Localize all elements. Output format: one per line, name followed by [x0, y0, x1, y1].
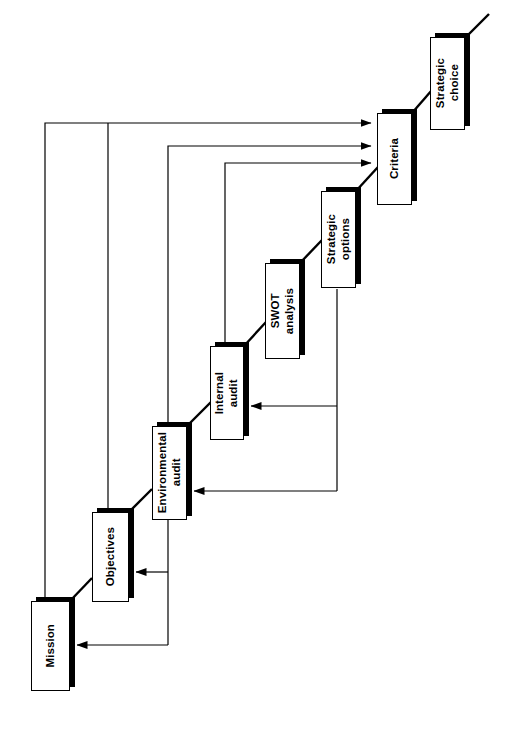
node-label-criteria: Criteria	[388, 138, 402, 179]
node-strategic-choice[interactable]: Strategic choice	[430, 37, 465, 130]
node-label-objectives: Objectives	[104, 527, 118, 586]
strategic-planning-diagram: Mission Objectives Environmental audit I…	[0, 0, 509, 735]
node-objectives[interactable]: Objectives	[92, 512, 129, 602]
node-strategic-options[interactable]: Strategic options	[321, 191, 356, 288]
node-environmental-audit[interactable]: Environmental audit	[152, 426, 187, 520]
node-label-swot-analysis: SWOT analysis	[269, 288, 296, 334]
node-label-mission: Mission	[44, 624, 58, 668]
node-label-strategic-options: Strategic options	[325, 214, 352, 264]
node-label-internal-audit: Internal audit	[213, 372, 240, 414]
node-label-environmental-audit: Environmental audit	[156, 432, 183, 513]
node-swot-analysis[interactable]: SWOT analysis	[265, 263, 300, 359]
node-label-strategic-choice: Strategic choice	[434, 58, 461, 108]
node-mission[interactable]: Mission	[31, 601, 70, 691]
node-criteria[interactable]: Criteria	[377, 113, 412, 205]
node-internal-audit[interactable]: Internal audit	[210, 346, 244, 440]
